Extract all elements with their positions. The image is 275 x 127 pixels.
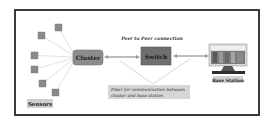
sensor-node <box>52 89 59 96</box>
network-diagram: Sensors Cluster Peer to Peer connection … <box>0 0 275 127</box>
arrowhead-right <box>136 55 140 59</box>
sensor-link <box>35 56 77 58</box>
fiber-note-line1: Fiber for communication between <box>110 87 185 92</box>
switch-label: Switch <box>145 53 168 60</box>
base-station-label: Base Station <box>212 78 245 83</box>
sensor-node <box>55 24 62 31</box>
sensor-node <box>31 52 38 59</box>
sensor-node <box>38 32 45 39</box>
sensors-label: Sensors <box>28 101 52 107</box>
fiber-note-line2: cluster and base station <box>111 93 163 98</box>
arrowhead-left <box>104 55 108 59</box>
arrowhead-right-2 <box>205 54 209 58</box>
peer-connection-label: Peer to Peer connection <box>120 36 183 41</box>
cluster-label: Cluster <box>76 54 101 61</box>
base-station-computer-icon <box>209 44 247 74</box>
sensors-group <box>31 24 62 96</box>
sensor-link <box>42 36 77 58</box>
sensor-link <box>43 57 77 84</box>
arrowhead-left-2 <box>173 54 177 58</box>
sensor-node <box>39 80 46 87</box>
sensor-node <box>31 66 38 73</box>
